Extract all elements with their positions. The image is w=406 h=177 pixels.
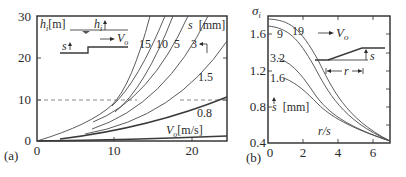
panel-a: 0 10 20 30 0 10 20 (a) 15 10 5 3 1.5 0.8 xyxy=(4,9,227,163)
x-axis-label: r/s xyxy=(318,124,331,138)
arrow-icon xyxy=(199,42,203,46)
y-tick-label: 1.6 xyxy=(250,26,267,41)
x-tick-label: 2 xyxy=(300,145,307,160)
curve-label: 1.5 xyxy=(198,70,213,84)
water-surface-icon xyxy=(82,31,90,34)
legend-title: s [mm] xyxy=(272,100,309,114)
figure: 0 10 20 30 0 10 20 (a) 15 10 5 3 1.5 0.8 xyxy=(0,0,406,177)
curve-label: 5 xyxy=(174,37,180,51)
y-tick-label: 0.8 xyxy=(250,99,266,114)
inset-v-label: Vo xyxy=(336,25,349,42)
curve-label: 3 xyxy=(191,37,197,51)
arrow-up-icon xyxy=(364,49,368,53)
x-label-unit: [m/s] xyxy=(177,123,202,137)
y-tick-label: 20 xyxy=(18,50,31,65)
legend-s: s xyxy=(188,18,193,32)
arrow-left-icon xyxy=(327,69,331,73)
inset-r: r xyxy=(344,64,349,78)
curve-label: 19 xyxy=(292,24,304,38)
y-label-unit: [m] xyxy=(48,17,65,31)
legend-unit: [mm] xyxy=(199,18,226,32)
inset-s: s xyxy=(370,49,375,63)
inset-step-diagram: hi Vo s xyxy=(60,17,128,53)
y-axis-label: hi[m] xyxy=(40,17,66,33)
arrow-right-icon xyxy=(110,37,115,41)
arrow-right-icon xyxy=(358,69,362,73)
curve-label: 1.6 xyxy=(270,71,285,85)
curve-s-19 xyxy=(268,19,390,141)
x-tick-label: 10 xyxy=(108,143,121,158)
curve-s-15 xyxy=(112,16,165,106)
pointer-line xyxy=(200,44,207,53)
x-tick-label: 6 xyxy=(370,145,377,160)
legend-title: s [mm] xyxy=(188,18,225,32)
y-tick-label: 0.4 xyxy=(250,135,267,150)
inset-v-label: Vo xyxy=(117,31,128,47)
panel-label-a: (a) xyxy=(4,148,18,163)
curve-label: 15 xyxy=(139,37,151,51)
panel-label-b: (b) xyxy=(246,150,261,165)
y-tick-label: 1.2 xyxy=(250,63,266,78)
x-tick-label: 0 xyxy=(267,145,274,160)
curve-label: 10 xyxy=(156,37,168,51)
curve-label: 3.2 xyxy=(270,51,285,65)
x-tick-label: 20 xyxy=(186,143,199,158)
panel-b: 0.4 0.8 1.2 1.6 0 2 4 6 (b) σi 9 19 3.2 … xyxy=(246,3,390,165)
y-tick-label: 0 xyxy=(25,133,32,148)
y-tick-label: 30 xyxy=(18,9,31,24)
x-tick-label: 0 xyxy=(34,143,41,158)
inset-ramp-diagram: Vo s r xyxy=(315,25,385,78)
curve-label: 9 xyxy=(277,27,283,41)
arrow-up-icon xyxy=(272,97,276,101)
arrow-up-icon xyxy=(68,42,72,46)
x-axis-label: Vo[m/s] xyxy=(166,123,203,139)
x-tick-label: 4 xyxy=(335,145,342,160)
curve-label: 0.8 xyxy=(197,106,212,120)
y-tick-label: 10 xyxy=(18,92,31,107)
arrow-up-icon xyxy=(103,20,107,24)
inset-v-sub: o xyxy=(344,32,349,42)
arrow-right-icon xyxy=(329,31,334,35)
inset-h-sub: i xyxy=(100,24,102,33)
y-label-sub: i xyxy=(258,11,260,20)
legend-unit: [mm] xyxy=(283,100,310,114)
inset-h-label: hi xyxy=(94,17,102,33)
inset-v-sub: o xyxy=(124,38,128,47)
inset-s: s xyxy=(62,39,67,53)
legend-s: s xyxy=(272,100,277,114)
y-axis-label: σi xyxy=(252,3,261,20)
curve-s-5 xyxy=(93,16,188,122)
